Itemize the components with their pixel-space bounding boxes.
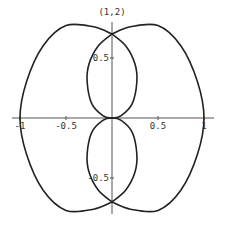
x-tick-label: -0.5 — [55, 121, 77, 131]
chart-title: (1,2) — [98, 7, 125, 17]
chart: (1,2) -1-0.50.510.5-0.5 — [0, 0, 226, 228]
x-tick-label: 0.5 — [150, 121, 166, 131]
y-tick-label: 0.5 — [93, 53, 109, 63]
